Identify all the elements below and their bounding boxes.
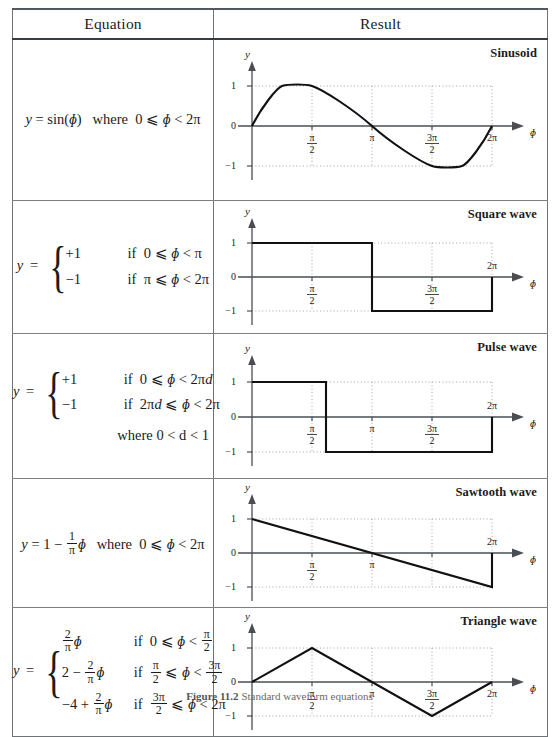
x-axis-label: ɸ bbox=[530, 417, 536, 429]
x-tick-3pi-over-2-den: 2 bbox=[430, 144, 435, 155]
plot-svg-sinusoid: y ɸ 1 0 −1 π 2 π bbox=[214, 40, 547, 200]
plot-title-pulse-wave: Pulse wave bbox=[477, 340, 537, 355]
x-tick-2pi: 2π bbox=[487, 400, 497, 411]
table-row: y = { +1if 0 ⩽ ɸ < π −1if π ⩽ ɸ < 2π Squ… bbox=[13, 201, 548, 334]
result-cell-pulse-wave: Pulse wave bbox=[214, 334, 548, 479]
x-tick-3pi-over-2-num: 3π bbox=[427, 423, 437, 434]
equation-sawtooth-wave: y = 1 − 1πɸ where 0 ⩽ ɸ < 2π bbox=[21, 536, 204, 552]
y-tick-neg1: −1 bbox=[225, 305, 236, 316]
equation-cell-triangle-wave: y = { 2πɸif 0 ⩽ ɸ < π2 2 − 2πɸif π2 ⩽ ɸ … bbox=[13, 608, 214, 737]
equation-cell-pulse-wave: y = { +1if 0 ⩽ ɸ < 2πd −1if 2πd ⩽ ɸ < 2π… bbox=[13, 334, 214, 479]
y-tick-1: 1 bbox=[231, 513, 236, 524]
result-cell-triangle-wave: Triangle wave bbox=[214, 608, 548, 737]
x-tick-pi-over-2-num: π bbox=[309, 559, 314, 570]
x-axis-arrow bbox=[512, 273, 524, 282]
axes bbox=[238, 61, 524, 180]
x-tick-pi: π bbox=[369, 423, 374, 434]
x-tick-pi-over-2-den: 2 bbox=[310, 435, 315, 446]
x-tick-pi-over-2-den: 2 bbox=[310, 571, 315, 582]
x-axis-arrow bbox=[512, 549, 524, 558]
plot-title-sinusoid: Sinusoid bbox=[490, 46, 537, 61]
equation-triangle-wave: y = { 2πɸif 0 ⩽ ɸ < π2 2 − 2πɸif π2 ⩽ ɸ … bbox=[13, 662, 226, 678]
y-axis-label: y bbox=[244, 342, 250, 354]
equation-cell-square-wave: y = { +1if 0 ⩽ ɸ < π −1if π ⩽ ɸ < 2π bbox=[13, 201, 214, 334]
result-cell-sinusoid: Sinusoid bbox=[214, 39, 548, 201]
y-tick-0: 0 bbox=[231, 271, 236, 282]
x-axis-arrow bbox=[512, 678, 524, 687]
result-cell-square-wave: Square wave bbox=[214, 201, 548, 334]
plot-pulse-wave: Pulse wave bbox=[214, 334, 547, 478]
table-row: y = { +1if 0 ⩽ ɸ < 2πd −1if 2πd ⩽ ɸ < 2π… bbox=[13, 334, 548, 479]
y-axis-arrow bbox=[248, 355, 256, 365]
x-tick-pi-over-2-den: 2 bbox=[310, 295, 315, 306]
waveform-table: Equation Result y = sin(ɸ) where 0 ⩽ ɸ <… bbox=[12, 8, 548, 737]
y-tick-neg1: −1 bbox=[225, 446, 236, 457]
equation-pulse-wave-note: where 0 < d < 1 bbox=[13, 418, 213, 446]
x-tick-3pi-over-2-den: 2 bbox=[430, 435, 435, 446]
equation-cell-sawtooth-wave: y = 1 − 1πɸ where 0 ⩽ ɸ < 2π bbox=[13, 479, 214, 608]
x-tick-3pi-over-2-den: 2 bbox=[430, 295, 435, 306]
y-tick-0: 0 bbox=[231, 547, 236, 558]
equation-square-wave: y = { +1if 0 ⩽ ɸ < π −1if π ⩽ ɸ < 2π bbox=[17, 257, 209, 273]
y-axis-label: y bbox=[244, 48, 250, 60]
x-axis-label: ɸ bbox=[530, 126, 536, 138]
axes bbox=[238, 623, 524, 730]
figure-caption-text: Standard waveform equations bbox=[241, 690, 372, 702]
y-tick-1: 1 bbox=[231, 237, 236, 248]
plot-square-wave: Square wave bbox=[214, 201, 547, 333]
x-tick-pi: π bbox=[369, 132, 374, 143]
x-axis-label: ɸ bbox=[530, 553, 536, 565]
equation-sinusoid: y = sin(ɸ) where 0 ⩽ ɸ < 2π bbox=[25, 111, 200, 127]
y-tick-1: 1 bbox=[231, 376, 236, 387]
y-axis-label: y bbox=[244, 481, 250, 493]
axes bbox=[238, 218, 524, 325]
y-tick-neg1: −1 bbox=[225, 581, 236, 592]
y-axis-arrow bbox=[248, 623, 256, 633]
x-axis-arrow bbox=[512, 122, 524, 131]
x-axis-label: ɸ bbox=[530, 277, 536, 289]
figure-number: Figure 11.2 bbox=[186, 690, 238, 702]
x-tick-pi-over-2-den: 2 bbox=[310, 144, 315, 155]
figure-caption: Figure 11.2 Standard waveform equations bbox=[0, 690, 559, 702]
y-tick-neg1: −1 bbox=[225, 160, 236, 171]
plot-svg-pulse-wave: y ɸ 1 0 −1 π 2 π 3π 2 bbox=[214, 334, 547, 478]
y-axis-label: y bbox=[244, 610, 250, 622]
x-tick-pi: π bbox=[369, 559, 374, 570]
equation-pulse-wave: y = { +1if 0 ⩽ ɸ < 2πd −1if 2πd ⩽ ɸ < 2π… bbox=[13, 383, 220, 446]
column-header-result: Result bbox=[214, 9, 548, 39]
table-row: y = 1 − 1πɸ where 0 ⩽ ɸ < 2π Sawtooth wa… bbox=[13, 479, 548, 608]
x-tick-3pi-over-2-num: 3π bbox=[427, 132, 437, 143]
y-axis-arrow bbox=[248, 494, 256, 504]
y-tick-0: 0 bbox=[231, 676, 236, 687]
plot-sawtooth-wave: Sawtooth wave bbox=[214, 479, 547, 607]
y-tick-0: 0 bbox=[231, 411, 236, 422]
table-row: y = sin(ɸ) where 0 ⩽ ɸ < 2π Sinusoid bbox=[13, 39, 548, 201]
column-header-equation: Equation bbox=[13, 9, 214, 39]
y-tick-neg1: −1 bbox=[225, 710, 236, 721]
x-tick-2pi: 2π bbox=[487, 260, 497, 271]
axes bbox=[238, 355, 524, 466]
y-axis-label: y bbox=[244, 205, 250, 217]
plot-title-square-wave: Square wave bbox=[468, 207, 537, 222]
x-tick-2pi: 2π bbox=[487, 536, 497, 547]
plot-title-sawtooth-wave: Sawtooth wave bbox=[455, 485, 537, 500]
x-tick-pi-over-2-num: π bbox=[309, 283, 314, 294]
table-header-row: Equation Result bbox=[13, 9, 548, 39]
x-axis-arrow bbox=[512, 413, 524, 422]
equation-cell-sinusoid: y = sin(ɸ) where 0 ⩽ ɸ < 2π bbox=[13, 39, 214, 201]
y-tick-1: 1 bbox=[231, 80, 236, 91]
table-row: y = { 2πɸif 0 ⩽ ɸ < π2 2 − 2πɸif π2 ⩽ ɸ … bbox=[13, 608, 548, 737]
axis-labels: y ɸ 1 0 −1 π 2 π 3π 2 bbox=[225, 342, 536, 457]
result-cell-sawtooth-wave: Sawtooth wave bbox=[214, 479, 548, 608]
plot-title-triangle-wave: Triangle wave bbox=[461, 614, 537, 629]
y-axis-arrow bbox=[248, 61, 256, 71]
x-tick-pi-over-2-num: π bbox=[309, 132, 314, 143]
plot-triangle-wave: Triangle wave bbox=[214, 608, 547, 736]
plot-sinusoid: Sinusoid bbox=[214, 40, 547, 200]
y-axis-arrow bbox=[248, 218, 256, 228]
x-tick-3pi-over-2-num: 3π bbox=[427, 283, 437, 294]
axis-labels: y ɸ 1 0 −1 π 2 π bbox=[225, 48, 536, 171]
x-tick-pi-over-2-num: π bbox=[309, 423, 314, 434]
y-tick-1: 1 bbox=[231, 642, 236, 653]
